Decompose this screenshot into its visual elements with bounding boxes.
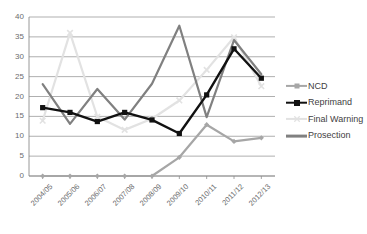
legend-item-label: Prosection: [308, 131, 351, 140]
data-point: [67, 173, 72, 178]
series-line: [43, 26, 262, 124]
data-point: [40, 173, 45, 178]
series-reprimand: [40, 46, 264, 136]
data-point: [204, 67, 210, 73]
legend-item-label: Final Warning: [308, 115, 363, 124]
legend-item-label: NCD: [308, 82, 328, 91]
legend-item-label: Reprimand: [308, 98, 352, 107]
y-axis-tick-label: 10: [15, 131, 24, 140]
data-point: [259, 76, 264, 81]
legend-item-reprimand[interactable]: Reprimand: [286, 95, 367, 112]
data-point: [95, 119, 100, 124]
legend-item-ncd[interactable]: NCD: [286, 78, 367, 95]
data-point: [177, 131, 182, 136]
data-point: [40, 105, 45, 110]
legend-item-final-warning[interactable]: Final Warning: [286, 111, 367, 128]
line-chart: 0510152025303540 2004/052005/062006/0720…: [0, 0, 367, 234]
series-ncd: [40, 122, 264, 178]
y-axis-tick-label: 0: [20, 171, 25, 180]
y-axis-tick-label: 35: [15, 32, 24, 41]
y-axis-tick-label: 15: [15, 111, 24, 120]
legend-key-icon: [286, 97, 307, 109]
data-point: [67, 110, 72, 115]
series-line: [43, 125, 262, 176]
data-point: [95, 173, 100, 178]
y-axis-tick-label: 40: [15, 12, 24, 21]
legend-item-prosection[interactable]: Prosection: [286, 128, 367, 145]
data-point: [122, 173, 127, 178]
series-prosection: [43, 26, 262, 124]
y-axis-tick-label: 30: [15, 52, 24, 61]
data-point: [122, 110, 127, 115]
data-point: [149, 117, 154, 122]
legend-key-icon: [286, 130, 307, 142]
chart-legend: NCDReprimandFinal WarningProsection: [286, 78, 367, 144]
legend-key-icon: [286, 113, 307, 125]
data-point: [204, 92, 209, 97]
y-axis-tick-label: 25: [15, 72, 24, 81]
legend-key-icon: [286, 80, 307, 92]
y-axis-tick-label: 5: [20, 151, 25, 160]
data-point: [231, 46, 236, 51]
y-axis-tick-label: 20: [15, 92, 24, 101]
